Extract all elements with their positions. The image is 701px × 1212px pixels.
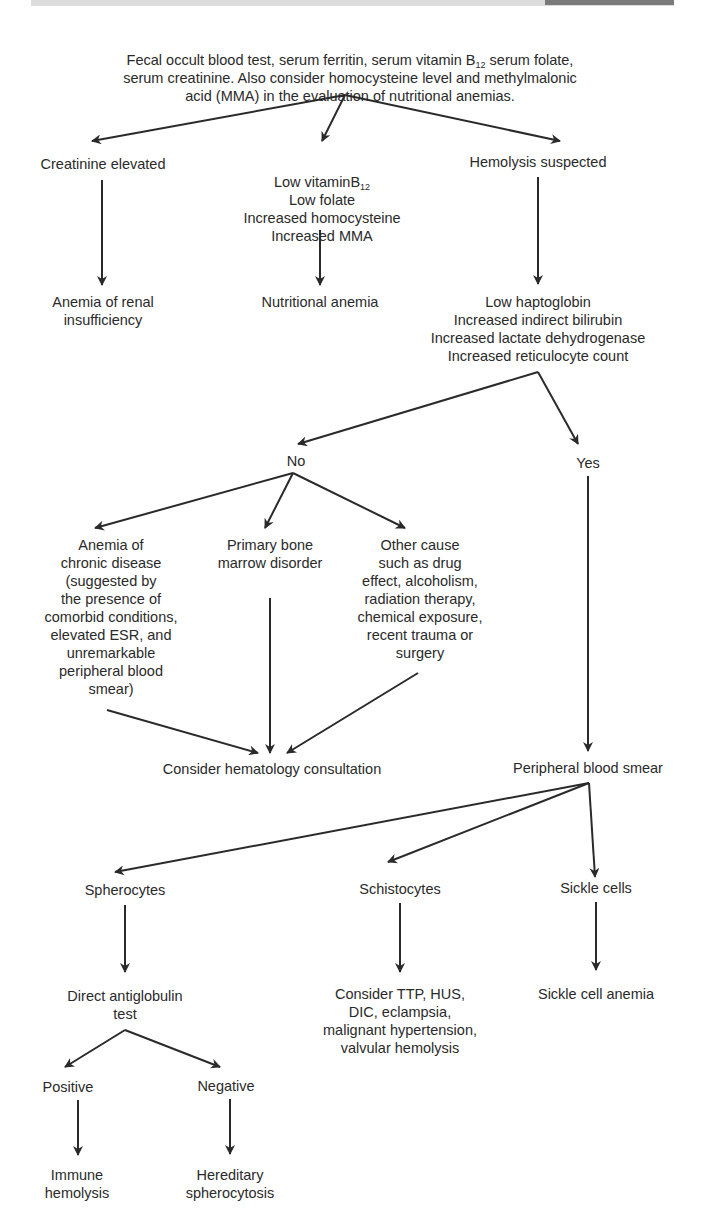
node-direct-antiglobulin: Direct antiglobulin test (40, 987, 210, 1023)
initial-tests-line1-post: serum folate, (486, 52, 574, 68)
node-anemia-chronic-disease: Anemia of chronic disease (suggested by … (26, 536, 196, 698)
node-hemolysis-labs: Low haptoglobin Increased indirect bilir… (408, 293, 668, 365)
node-initial-tests: Fecal occult blood test, serum ferritin,… (70, 33, 630, 105)
node-other-cause: Other cause such as drug effect, alcohol… (340, 536, 500, 662)
node-positive: Positive (43, 1078, 94, 1096)
node-sickle-cells: Sickle cells (560, 879, 632, 897)
node-nutritional-anemia: Nutritional anemia (240, 293, 400, 311)
node-negative: Negative (197, 1077, 254, 1095)
b12-subscript: 12 (476, 60, 486, 70)
node-spherocytes: Spherocytes (85, 881, 166, 899)
node-immune-hemolysis: Immune hemolysis (45, 1166, 109, 1202)
node-creatinine-elevated: Creatinine elevated (41, 155, 166, 173)
low-b12-label: Low vitaminB (274, 174, 360, 190)
node-primary-marrow: Primary bone marrow disorder (200, 536, 340, 572)
node-anemia-renal: Anemia of renal insufficiency (23, 293, 183, 329)
low-b12-details: Low folate Increased homocysteine Increa… (243, 192, 400, 244)
node-peripheral-smear: Peripheral blood smear (488, 759, 688, 777)
node-schistocytes: Schistocytes (359, 880, 440, 898)
node-hereditary-spherocytosis: Hereditary spherocytosis (186, 1166, 275, 1202)
initial-tests-rest: serum creatinine. Also consider homocyst… (123, 70, 577, 104)
node-sickle-cell-anemia: Sickle cell anemia (516, 985, 676, 1003)
node-low-b12: Low vitaminB12Low folate Increased homoc… (222, 155, 422, 245)
node-no: No (287, 452, 306, 470)
node-yes: Yes (576, 454, 600, 472)
node-hemolysis-suspected: Hemolysis suspected (470, 153, 607, 171)
node-hematology-consultation: Consider hematology consultation (122, 760, 422, 778)
node-consider-ttp: Consider TTP, HUS, DIC, eclampsia, malig… (300, 985, 500, 1057)
initial-tests-line1-pre: Fecal occult blood test, serum ferritin,… (127, 52, 476, 68)
low-b12-subscript: 12 (360, 182, 370, 192)
